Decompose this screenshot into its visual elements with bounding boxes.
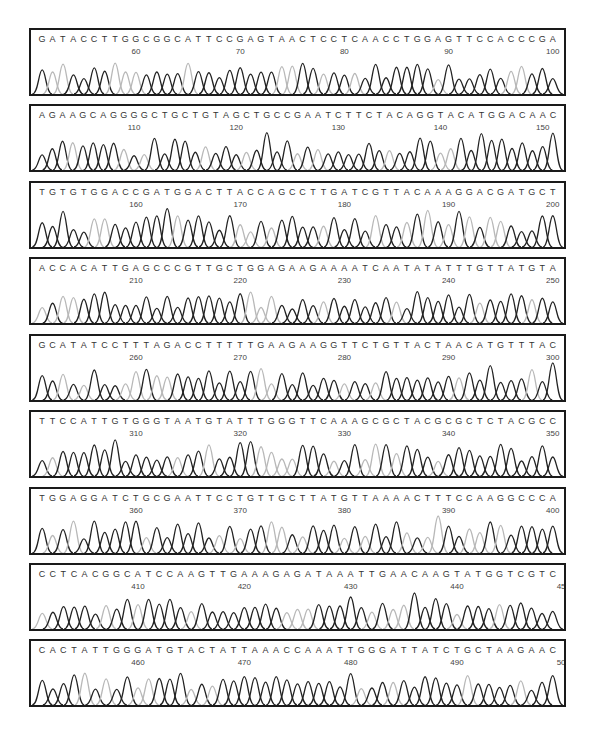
base-call: G xyxy=(47,110,57,122)
base-call: C xyxy=(58,645,68,657)
base-call: T xyxy=(207,569,217,581)
base-call: A xyxy=(152,340,162,352)
base-call: T xyxy=(339,34,349,46)
base-call: C xyxy=(225,34,235,46)
base-call: T xyxy=(344,110,354,122)
base-call: G xyxy=(58,493,68,505)
base-call: C xyxy=(154,569,164,581)
base-call: A xyxy=(193,187,203,199)
base-call: T xyxy=(225,187,235,199)
base-call: A xyxy=(68,493,78,505)
base-call: T xyxy=(454,34,464,46)
base-call: A xyxy=(186,645,196,657)
base-call: G xyxy=(527,187,537,199)
base-call: A xyxy=(266,340,276,352)
base-call: T xyxy=(37,416,47,428)
base-call: G xyxy=(329,187,339,199)
base-call: G xyxy=(131,34,141,46)
base-call: A xyxy=(282,569,292,581)
base-call: G xyxy=(412,34,422,46)
base-call: T xyxy=(381,187,391,199)
base-call: G xyxy=(277,263,287,275)
base-call: G xyxy=(475,263,485,275)
base-call: C xyxy=(69,569,79,581)
base-call: T xyxy=(402,34,412,46)
base-call: C xyxy=(412,493,422,505)
base-call: C xyxy=(68,416,78,428)
base-call: G xyxy=(235,34,245,46)
base-call: A xyxy=(475,493,485,505)
base-call: A xyxy=(402,493,412,505)
base-call: G xyxy=(464,187,474,199)
base-call: T xyxy=(314,569,324,581)
base-call: A xyxy=(384,110,394,122)
base-call: A xyxy=(260,569,270,581)
base-call: C xyxy=(197,645,207,657)
base-call: T xyxy=(211,110,221,122)
base-call: T xyxy=(193,34,203,46)
base-call: A xyxy=(360,34,370,46)
base-call: G xyxy=(526,569,536,581)
base-call: A xyxy=(131,263,141,275)
base-call: T xyxy=(214,340,224,352)
base-call: G xyxy=(141,416,151,428)
base-call: C xyxy=(371,416,381,428)
base-call: C xyxy=(89,34,99,46)
base-call: C xyxy=(485,416,495,428)
base-call: A xyxy=(266,263,276,275)
base-call: T xyxy=(239,645,249,657)
base-call: G xyxy=(170,110,180,122)
base-call: G xyxy=(262,110,272,122)
base-call: C xyxy=(193,340,203,352)
base-call: A xyxy=(433,187,443,199)
base-call: C xyxy=(537,493,547,505)
base-call: T xyxy=(110,263,120,275)
base-call: G xyxy=(129,110,139,122)
base-call: C xyxy=(225,263,235,275)
base-call: G xyxy=(329,340,339,352)
base-call: C xyxy=(318,416,328,428)
base-call: G xyxy=(152,34,162,46)
base-call: C xyxy=(516,34,526,46)
base-call: A xyxy=(412,340,422,352)
base-call: T xyxy=(516,263,526,275)
base-call: T xyxy=(496,263,506,275)
base-call: C xyxy=(256,187,266,199)
base-call: G xyxy=(496,493,506,505)
base-call: A xyxy=(402,187,412,199)
peak-trace xyxy=(31,589,564,629)
base-call: T xyxy=(175,645,185,657)
base-call: A xyxy=(548,263,558,275)
peak-trace xyxy=(31,54,564,94)
trace-panel: ACCACATTGAGCCCGTTGCTGGAGAAGAAAATCAATATAT… xyxy=(29,257,566,325)
base-call: T xyxy=(58,187,68,199)
base-call: A xyxy=(423,187,433,199)
base-call: C xyxy=(517,110,527,122)
base-sequence: TGTGTGGACCGATGGACTTACCAGCCTTGATCGTTACAAA… xyxy=(37,187,558,199)
base-call: A xyxy=(313,110,323,122)
base-call: T xyxy=(266,493,276,505)
base-call: T xyxy=(339,340,349,352)
base-call: G xyxy=(454,187,464,199)
base-call: G xyxy=(287,416,297,428)
base-call: G xyxy=(131,416,141,428)
base-call: C xyxy=(241,110,251,122)
base-call: T xyxy=(245,340,255,352)
base-call: T xyxy=(423,263,433,275)
base-call: T xyxy=(356,569,366,581)
base-call: C xyxy=(58,263,68,275)
base-call: G xyxy=(204,416,214,428)
trace-panel: TGGAGGATCTGCGAATTCCTGTTGCTTATGTTAAAACTTT… xyxy=(29,487,566,555)
base-call: A xyxy=(172,493,182,505)
base-call: A xyxy=(225,416,235,428)
base-call: T xyxy=(58,569,68,581)
base-call: A xyxy=(57,110,67,122)
base-call: A xyxy=(463,569,473,581)
base-call: G xyxy=(201,110,211,122)
base-call: G xyxy=(318,340,328,352)
base-call: T xyxy=(131,340,141,352)
base-call: G xyxy=(378,569,388,581)
base-call: A xyxy=(391,493,401,505)
base-call: G xyxy=(516,645,526,657)
base-call: T xyxy=(214,187,224,199)
